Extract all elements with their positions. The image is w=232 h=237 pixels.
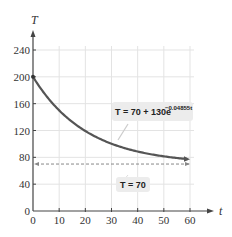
y-tick-label: 200 (14, 71, 31, 83)
asymptote-left-arrow-icon (34, 162, 39, 166)
x-axis-arrow-icon (207, 209, 214, 214)
asymptote-annotation-text: T = 70 (120, 180, 146, 190)
x-tick-label: 60 (185, 214, 197, 226)
x-axis-label: t (219, 204, 223, 218)
y-tick-label: 0 (25, 205, 31, 217)
y-tick-label: 120 (14, 125, 31, 137)
curve-annotation-text: T = 70 + 130e (115, 107, 171, 117)
x-tick-label: 0 (30, 214, 36, 226)
y-axis-arrow-icon (31, 30, 36, 37)
annotation-leader-line (118, 124, 128, 140)
y-tick-label: 160 (14, 98, 31, 110)
x-tick-label: 40 (132, 214, 144, 226)
y-tick-label: 40 (19, 178, 31, 190)
asymptote-right-arrow-icon (185, 162, 190, 166)
y-tick-label: 240 (14, 44, 31, 56)
tick-labels: 010203040506004080120160200240 (14, 44, 197, 226)
y-axis-label: T (31, 13, 39, 27)
chart: 010203040506004080120160200240 T = 70 + … (0, 0, 232, 237)
x-tick-label: 30 (106, 214, 118, 226)
y-tick-label: 80 (19, 151, 31, 163)
curve-annotation-exponent: −0.04855t (165, 105, 192, 111)
initial-point (31, 75, 35, 79)
grid-lines (33, 46, 194, 211)
x-tick-label: 10 (54, 214, 66, 226)
x-tick-label: 50 (158, 214, 170, 226)
x-tick-label: 20 (80, 214, 92, 226)
